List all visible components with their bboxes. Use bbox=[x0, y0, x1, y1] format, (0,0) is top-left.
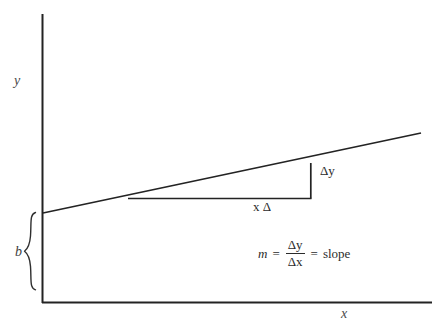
equation-lhs: m bbox=[258, 247, 267, 260]
slope-diagram: y x Δy x Δ b m = Δy Δx = slope bbox=[0, 0, 442, 327]
fraction-numerator: Δy bbox=[286, 238, 305, 253]
equation-equals-second: = bbox=[311, 247, 318, 260]
diagram-canvas bbox=[0, 0, 442, 327]
equation-equals-first: = bbox=[272, 247, 279, 260]
y-axis-label: y bbox=[14, 74, 20, 88]
x-axis-label: x bbox=[341, 307, 347, 321]
fraction-denominator: Δx bbox=[286, 254, 305, 269]
intercept-label: b bbox=[15, 245, 22, 259]
slope-line bbox=[43, 133, 421, 213]
intercept-brace bbox=[25, 213, 36, 290]
run-label: x Δ bbox=[253, 200, 271, 213]
rise-label: Δy bbox=[320, 164, 335, 177]
slope-equation: m = Δy Δx = slope bbox=[258, 238, 350, 268]
delta-fraction: Δy Δx bbox=[286, 238, 305, 268]
equation-rhs: slope bbox=[323, 247, 350, 260]
